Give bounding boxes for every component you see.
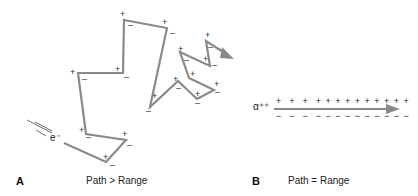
svg-text:–: – [184,55,189,65]
alpha-label: α⁺⁺ [253,101,269,112]
panel-b-letter: B [252,175,260,187]
svg-text:–: – [215,87,220,97]
svg-text:–: – [128,20,133,30]
svg-text:+: + [178,44,183,54]
panel-a-caption: Path > Range [86,175,147,186]
svg-text:–: – [110,160,115,170]
minus-row: − − − − − − − − − − − − − [276,111,410,121]
incoming-lines [27,120,52,136]
panel-b-caption: Path = Range [288,175,349,186]
svg-text:–: – [124,72,129,82]
svg-text:+: + [162,17,167,27]
svg-text:–: – [170,28,175,38]
svg-text:+: + [79,125,84,135]
svg-text:–: – [82,74,87,84]
electron-label: e⁻ [50,132,61,143]
svg-text:+: + [120,9,125,19]
svg-text:–: – [146,106,151,116]
svg-text:–: – [127,140,132,150]
svg-text:–: – [195,98,200,108]
plus-row: + + + + + + + + + + + + + [276,96,410,106]
panel-a-letter: A [16,175,24,187]
svg-text:–: – [208,42,213,52]
svg-text:+: + [115,64,120,74]
svg-text:+: + [203,54,208,64]
svg-text:+: + [152,91,157,101]
svg-text:+: + [70,67,75,77]
svg-text:+: + [122,129,127,139]
charge-markers-a: +– +– +– +– +– +– +– + +– +– +– +– +– +–… [70,9,220,170]
svg-text:–: – [176,83,181,93]
arrow-head-a [220,47,234,59]
svg-text:–: – [86,132,91,142]
svg-text:–: – [212,60,217,70]
svg-text:+: + [190,69,195,79]
svg-text:+: + [103,152,108,162]
svg-text:+: + [205,30,210,40]
